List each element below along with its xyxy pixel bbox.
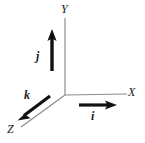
vector-label-j: j xyxy=(36,50,39,62)
axis-lines xyxy=(21,18,127,127)
vector-k-arrow xyxy=(18,96,51,121)
axis-label-y: Y xyxy=(61,3,68,15)
axes-diagram-canvas xyxy=(0,0,145,143)
vector-label-k: k xyxy=(24,89,30,101)
x-axis-line xyxy=(65,94,127,95)
vector-label-i: i xyxy=(91,110,94,122)
axis-label-z: Z xyxy=(7,123,14,135)
axis-label-x: X xyxy=(128,86,135,98)
vector-j-arrow xyxy=(47,29,56,71)
vector-i-arrow xyxy=(79,101,117,110)
coordinate-axes-figure: Y X Z j k i xyxy=(0,0,145,143)
unit-vector-arrows xyxy=(18,29,118,121)
